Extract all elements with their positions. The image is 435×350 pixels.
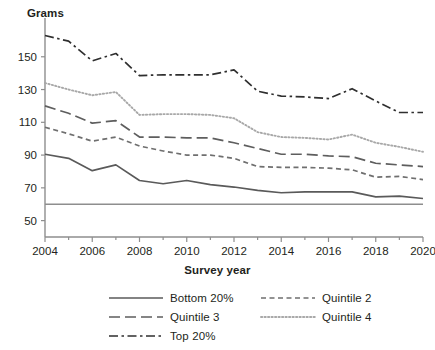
y-axis-tick-label: 70	[24, 182, 37, 194]
series-line-quintile-3	[45, 106, 423, 167]
legend-item[interactable]: Bottom 20%	[108, 292, 260, 304]
series-line-quintile-4	[45, 83, 423, 152]
legend-swatch-dash-dot	[108, 331, 164, 341]
y-axis-tick-label: 50	[24, 215, 37, 227]
series-line-bottom-20	[45, 154, 423, 198]
x-axis-tick-label: 2012	[221, 245, 247, 257]
x-axis-tick-label: 2018	[363, 245, 389, 257]
x-axis-tick-label: 2008	[127, 245, 153, 257]
series-line-quintile-2	[45, 127, 423, 179]
legend-label: Quintile 3	[170, 311, 220, 323]
legend-label: Top 20%	[170, 330, 215, 342]
y-axis-tick-label: 110	[19, 116, 37, 128]
legend-item[interactable]: Quintile 3	[108, 311, 260, 323]
legend-swatch-dashed-long	[108, 312, 164, 322]
y-axis-tick-label: 150	[18, 51, 37, 63]
y-axis-tick-label: 130	[18, 84, 37, 96]
legend-item[interactable]: Quintile 4	[260, 311, 412, 323]
legend-swatch-dotted	[260, 312, 316, 322]
x-axis-tick-label: 2010	[174, 245, 200, 257]
legend-label: Quintile 2	[322, 292, 372, 304]
x-axis-tick-label: 2006	[79, 245, 105, 257]
x-axis-tick-label: 2014	[268, 245, 294, 257]
chart-legend: Bottom 20%Quintile 2Quintile 3Quintile 4…	[108, 288, 418, 345]
x-axis-title: Survey year	[0, 264, 435, 276]
chart-figure: Grams 5070901101301502004200620082010201…	[0, 0, 435, 350]
x-axis-tick-label: 2004	[32, 245, 58, 257]
series-line-top-20	[45, 35, 423, 112]
y-axis-tick-label: 90	[24, 149, 37, 161]
legend-swatch-dashed-short	[260, 293, 316, 303]
legend-item[interactable]: Quintile 2	[260, 292, 412, 304]
legend-swatch-solid	[108, 293, 164, 303]
legend-label: Quintile 4	[322, 311, 372, 323]
line-chart-plot: 5070901101301502004200620082010201220142…	[0, 0, 435, 262]
legend-label: Bottom 20%	[170, 292, 234, 304]
x-axis-tick-label: 2020	[410, 245, 435, 257]
legend-item[interactable]: Top 20%	[108, 330, 260, 342]
x-axis-tick-label: 2016	[316, 245, 342, 257]
